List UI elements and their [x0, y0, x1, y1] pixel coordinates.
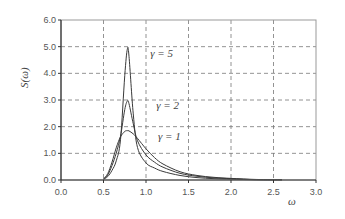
- y-tick-label: 6.0: [43, 15, 56, 25]
- series-annotation: γ = 1: [158, 130, 181, 142]
- y-axis-label: S(ω): [18, 67, 31, 88]
- x-tick-label: 3.0: [310, 187, 323, 197]
- y-tick-label: 3.0: [43, 95, 56, 105]
- series-annotation: γ = 5: [150, 47, 173, 59]
- y-tick-label: 1.0: [43, 148, 56, 158]
- x-axis-label: ω: [288, 195, 296, 207]
- y-tick-label: 4.0: [43, 68, 56, 78]
- x-tick-label: 2.0: [225, 187, 238, 197]
- x-tick-label: 1.5: [182, 187, 195, 197]
- series-line-3: [104, 47, 283, 180]
- series-annotation: γ = 2: [156, 99, 179, 111]
- series-line-1: [104, 131, 283, 180]
- grid-lines: [61, 20, 316, 180]
- x-tick-label: 1.0: [140, 187, 153, 197]
- y-tick-label: 2.0: [43, 122, 56, 132]
- y-tick-label: 0.0: [43, 175, 56, 185]
- series-line-2: [104, 100, 283, 179]
- y-tick-label: 5.0: [43, 42, 56, 52]
- data-series: [104, 47, 283, 180]
- x-tick-label: 0.5: [97, 187, 110, 197]
- tick-labels: 0.00.51.01.52.02.53.00.01.02.03.04.05.06…: [43, 15, 322, 197]
- x-tick-label: 2.5: [267, 187, 280, 197]
- spectrum-chart: 0.00.51.01.52.02.53.00.01.02.03.04.05.06…: [0, 0, 345, 219]
- series-annotations: γ = 5γ = 2γ = 1: [150, 47, 180, 142]
- x-tick-label: 0.0: [55, 187, 68, 197]
